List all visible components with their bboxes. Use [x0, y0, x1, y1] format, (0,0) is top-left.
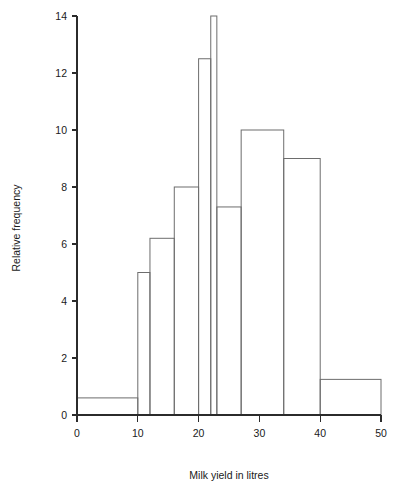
y-tick-label: 12	[55, 67, 67, 79]
y-tick-label: 6	[61, 238, 67, 250]
chart-canvas: 02468101214 01020304050 Relative frequen…	[0, 0, 418, 502]
y-tick-label: 0	[61, 409, 67, 421]
y-tick-label: 4	[61, 295, 67, 307]
x-tick-label: 20	[193, 427, 205, 439]
y-tick-label: 8	[61, 181, 67, 193]
x-tick-label: 50	[375, 427, 387, 439]
y-tick-label: 14	[55, 10, 67, 22]
histogram-chart: 02468101214 01020304050 Relative frequen…	[0, 0, 418, 502]
x-tick-label: 30	[254, 427, 266, 439]
x-tick-label: 10	[132, 427, 144, 439]
x-axis-title: Milk yield in litres	[189, 469, 268, 481]
y-tick-label: 10	[55, 124, 67, 136]
x-tick-label: 0	[74, 427, 80, 439]
x-tick-label: 40	[314, 427, 326, 439]
y-axis-title: Relative frequency	[10, 184, 22, 272]
y-tick-label: 2	[61, 352, 67, 364]
